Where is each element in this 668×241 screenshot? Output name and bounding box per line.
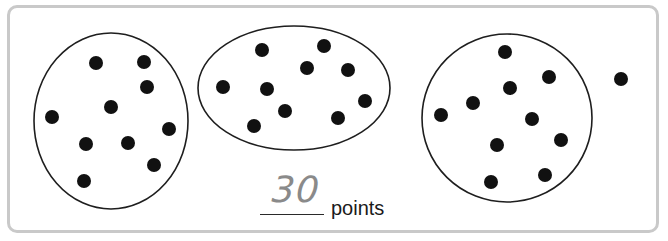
dot xyxy=(137,55,151,69)
dot xyxy=(104,100,118,114)
dot-group-3 xyxy=(422,34,592,202)
dot xyxy=(260,82,274,96)
dot xyxy=(490,138,504,152)
dot xyxy=(525,112,539,126)
dot xyxy=(162,122,176,136)
dot xyxy=(255,43,269,57)
dot xyxy=(466,96,480,110)
dot xyxy=(341,63,355,77)
dot xyxy=(538,168,552,182)
dot xyxy=(121,136,135,150)
dot xyxy=(140,80,154,94)
dot xyxy=(300,61,314,75)
dot xyxy=(542,70,556,84)
dot xyxy=(147,158,161,172)
dot-group-1 xyxy=(34,33,188,209)
dot xyxy=(77,174,91,188)
dot xyxy=(247,119,261,133)
dot xyxy=(331,111,345,125)
dot xyxy=(554,133,568,147)
dot xyxy=(503,81,517,95)
dot xyxy=(79,137,93,151)
answer-blank-line xyxy=(260,214,324,215)
dot xyxy=(89,56,103,70)
dot xyxy=(498,45,512,59)
dot xyxy=(317,39,331,53)
dot xyxy=(45,110,59,124)
dot-group-2 xyxy=(198,26,390,150)
dot xyxy=(216,80,230,94)
dot xyxy=(358,94,372,108)
group-circle xyxy=(422,34,592,202)
dot xyxy=(484,175,498,189)
loose-dot xyxy=(614,72,628,86)
handwritten-answer: 30 xyxy=(264,168,327,212)
answer-unit-label: points xyxy=(331,196,384,220)
dot xyxy=(278,104,292,118)
dot xyxy=(434,108,448,122)
